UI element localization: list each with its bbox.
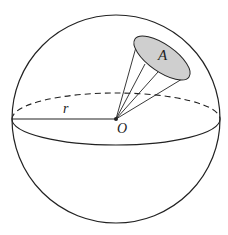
label-radius-r: r: [63, 101, 68, 117]
equator-back-dashed: [12, 93, 220, 119]
diagram-canvas: [0, 0, 228, 235]
equator-front: [12, 119, 220, 145]
label-center-O: O: [117, 121, 127, 137]
label-area-A: A: [158, 47, 167, 64]
sphere-diagram: A r O: [0, 0, 228, 235]
